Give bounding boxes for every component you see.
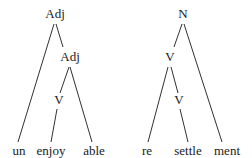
node-adj-inner: Adj xyxy=(60,50,80,64)
leaf-settle: settle xyxy=(174,144,201,158)
node-n-root: N xyxy=(178,7,187,21)
leaf-un: un xyxy=(13,144,26,158)
edge-n-ment xyxy=(184,24,222,142)
leaf-re: re xyxy=(142,144,152,158)
edge-adj-v xyxy=(60,67,69,93)
edge-v-re xyxy=(148,67,168,142)
edge-v-enjoy xyxy=(51,109,57,142)
edge-adj-able xyxy=(70,67,92,142)
edge-v-settle xyxy=(180,109,188,142)
edge-n-v xyxy=(174,24,182,47)
leaf-able: able xyxy=(83,144,105,158)
tree-lines xyxy=(0,0,252,158)
node-v-inner: V xyxy=(165,50,174,64)
node-v: V xyxy=(174,93,183,107)
node-v: V xyxy=(54,93,63,107)
node-adj-root: Adj xyxy=(45,7,65,21)
edge-adj-adj xyxy=(56,24,63,47)
leaf-ment: ment xyxy=(214,144,240,158)
edge-v-v xyxy=(171,67,178,93)
edge-adj-un xyxy=(18,24,54,142)
leaf-enjoy: enjoy xyxy=(37,144,66,158)
